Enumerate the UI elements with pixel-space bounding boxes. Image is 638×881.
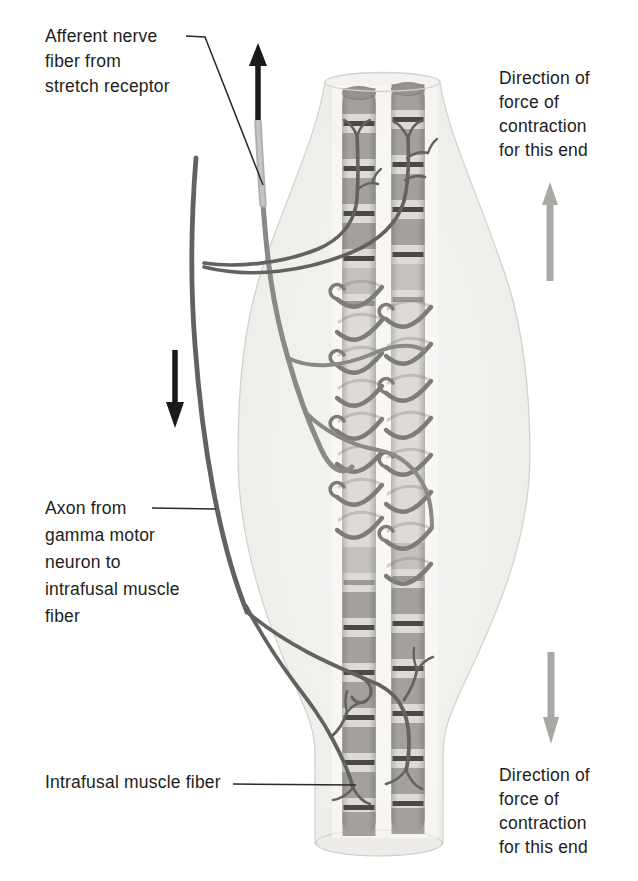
label-line: contraction [499,811,590,835]
label-line: fiber [45,603,180,630]
intrafusal-leader-line [233,784,356,785]
label-line: gamma motor [45,522,180,549]
gamma-axon-label: Axon from gamma motor neuron to intrafus… [45,495,180,630]
label-line: force of [499,787,590,811]
black-down-arrow-head [166,402,184,428]
label-line: Afferent nerve [45,24,170,49]
contraction-direction-top-label: Direction of force of contraction for th… [499,66,590,162]
afferent-nerve-label: Afferent nerve fiber from stretch recept… [45,24,170,99]
label-line: Axon from [45,495,180,522]
label-line: neuron to [45,549,180,576]
contraction-direction-bottom-label: Direction of force of contraction for th… [499,763,590,859]
label-line: Direction of [499,66,590,90]
gamma-trunk [192,158,247,612]
label-line: Intrafusal muscle fiber [45,770,221,795]
contraction-force-down-arrow [543,652,559,744]
intrafusal-fiber-label: Intrafusal muscle fiber [45,770,221,795]
label-line: stretch receptor [45,74,170,99]
afferent-direction-arrow [249,43,267,120]
label-line: fiber from [45,49,170,74]
contraction-force-up-arrow [542,182,558,281]
muscle-spindle-figure: Afferent nerve fiber from stretch recept… [0,0,638,881]
label-line: intrafusal muscle [45,576,180,603]
label-line: for this end [499,138,590,162]
label-line: Direction of [499,763,590,787]
gray-up-arrow-head [542,182,558,205]
label-line: contraction [499,114,590,138]
black-up-arrow-head [249,43,267,66]
label-line: for this end [499,835,590,859]
gray-down-arrow-head [543,717,559,744]
label-line: force of [499,90,590,114]
gamma-direction-arrow [166,350,184,428]
